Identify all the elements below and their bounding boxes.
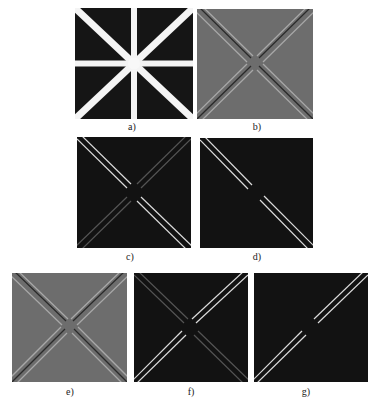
- panel-b-image: [197, 9, 313, 119]
- panel-f-image: [134, 273, 248, 382]
- panel-e-label: e): [50, 386, 90, 397]
- panel-g-label: g): [286, 386, 326, 397]
- panel-a-label: a): [112, 121, 152, 132]
- panel-c-label: c): [110, 251, 150, 262]
- panel-d-label: d): [237, 251, 277, 262]
- panel-c-image: [77, 137, 191, 248]
- panel-f-label: f): [171, 386, 211, 397]
- panel-g-image: [254, 273, 368, 382]
- panel-e-image: [12, 273, 127, 382]
- panel-d-image: [200, 138, 313, 248]
- panel-b-label: b): [237, 121, 277, 132]
- panel-a-image: [75, 8, 193, 119]
